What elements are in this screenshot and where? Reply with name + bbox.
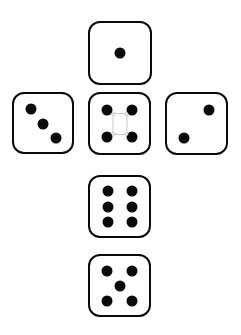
pip: [178, 132, 189, 143]
pip: [115, 48, 126, 59]
lower-center-die: [88, 175, 151, 238]
left-die: [12, 92, 74, 154]
pip: [126, 201, 137, 212]
center-die: [88, 92, 151, 155]
pip: [51, 133, 62, 144]
bottom-die: [88, 254, 151, 317]
top-die: [88, 21, 152, 85]
pip: [102, 265, 113, 276]
pip: [114, 280, 125, 291]
pip: [102, 201, 113, 212]
pip: [126, 295, 137, 306]
resize-handle-top-right: [124, 112, 128, 116]
pip: [204, 104, 215, 115]
pip: [102, 186, 113, 197]
resize-handle-top-left: [111, 112, 115, 116]
resize-handle-bottom-left: [111, 132, 115, 136]
dice-net-figure: [0, 0, 241, 335]
selection-box: [112, 113, 127, 135]
pip: [102, 295, 113, 306]
pip: [127, 104, 138, 115]
pip: [25, 104, 36, 115]
pip: [102, 217, 113, 228]
pip: [38, 119, 49, 130]
pip: [126, 186, 137, 197]
pip: [127, 132, 138, 143]
pip: [126, 265, 137, 276]
right-die: [165, 92, 228, 155]
resize-handle-bottom-right: [124, 132, 128, 136]
pip: [126, 217, 137, 228]
